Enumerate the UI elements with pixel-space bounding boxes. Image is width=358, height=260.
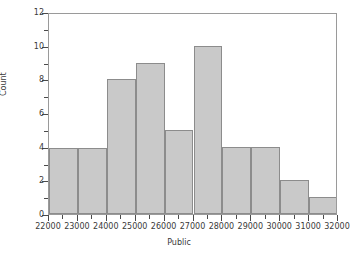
x-tick xyxy=(279,215,280,221)
x-tick xyxy=(77,215,78,221)
y-tick-label: 4 xyxy=(39,144,44,152)
histogram-bar xyxy=(49,148,78,214)
histogram-bar xyxy=(107,79,136,214)
x-tick xyxy=(164,215,165,221)
x-tick xyxy=(135,215,136,221)
x-tick-label: 22000 xyxy=(35,223,60,231)
x-tick xyxy=(48,215,49,221)
y-tick-minor xyxy=(44,165,48,166)
y-tick-label: 6 xyxy=(39,110,44,118)
x-tick-minor xyxy=(91,215,92,219)
x-tick-label: 29000 xyxy=(238,223,263,231)
histogram-bar xyxy=(251,147,280,214)
x-tick-label: 24000 xyxy=(93,223,118,231)
x-tick-minor xyxy=(149,215,150,219)
x-tick xyxy=(308,215,309,221)
y-tick-label: 2 xyxy=(39,177,44,185)
y-tick-label: 0 xyxy=(39,211,44,219)
y-tick-minor xyxy=(44,198,48,199)
x-tick xyxy=(337,215,338,221)
x-tick-minor xyxy=(323,215,324,219)
x-tick-label: 28000 xyxy=(209,223,234,231)
plot-area xyxy=(48,13,337,215)
histogram-chart: 024681012 220002300024000250002600027000… xyxy=(0,0,358,260)
x-tick-minor xyxy=(265,215,266,219)
histogram-bar xyxy=(280,180,309,214)
y-tick-minor xyxy=(44,64,48,65)
x-tick xyxy=(250,215,251,221)
x-tick xyxy=(106,215,107,221)
y-tick-minor xyxy=(44,131,48,132)
x-tick-label: 31000 xyxy=(295,223,320,231)
y-axis-title: Count xyxy=(0,72,8,96)
x-tick-label: 27000 xyxy=(180,223,205,231)
x-tick-label: 23000 xyxy=(64,223,89,231)
histogram-bar xyxy=(165,130,194,214)
y-tick-label: 8 xyxy=(39,76,44,84)
x-tick xyxy=(193,215,194,221)
y-tick-minor xyxy=(44,97,48,98)
y-tick-minor xyxy=(44,30,48,31)
histogram-bar xyxy=(222,147,251,214)
x-tick-minor xyxy=(207,215,208,219)
x-tick-label: 30000 xyxy=(266,223,291,231)
histogram-bar xyxy=(309,197,337,214)
histogram-bar xyxy=(78,148,107,214)
x-tick-label: 32000 xyxy=(324,223,349,231)
x-tick-minor xyxy=(236,215,237,219)
y-tick-label: 10 xyxy=(34,43,44,51)
y-tick-label: 12 xyxy=(34,9,44,17)
x-tick-minor xyxy=(62,215,63,219)
x-tick xyxy=(221,215,222,221)
x-tick-label: 25000 xyxy=(122,223,147,231)
x-tick-minor xyxy=(294,215,295,219)
histogram-bar xyxy=(136,63,165,215)
histogram-bar xyxy=(194,46,223,214)
x-tick-label: 26000 xyxy=(151,223,176,231)
bar-series xyxy=(49,14,336,214)
x-tick-minor xyxy=(120,215,121,219)
x-axis-title: Public xyxy=(0,239,358,247)
x-tick-minor xyxy=(178,215,179,219)
